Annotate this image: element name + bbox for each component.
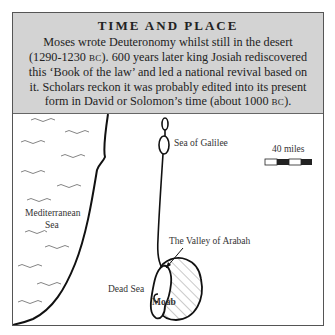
label-sea-of-galilee: Sea of Galilee	[174, 138, 228, 148]
caption-line: this ‘Book of the law’ and led a nationa…	[19, 65, 317, 80]
caption-box: TIME AND PLACE Moses wrote Deuteronomy w…	[13, 13, 323, 114]
label-sea: Sea	[45, 220, 59, 230]
map-figure: TIME AND PLACE Moses wrote Deuteronomy w…	[12, 12, 324, 326]
map-area: Sea of Galilee Mediterranean Sea The Val…	[13, 114, 323, 325]
scale-bar	[265, 159, 312, 165]
label-valley-of-arabah: The Valley of Arabah	[169, 236, 250, 246]
caption-line: form in David or Solomon’s time (about 1…	[19, 94, 317, 110]
coastline	[13, 114, 108, 325]
label-moab: Moab	[152, 297, 176, 307]
label-mediterranean: Mediterranean	[25, 208, 80, 218]
caption-title: TIME AND PLACE	[13, 18, 323, 34]
caption-line: Moses wrote Deuteronomy whilst still in …	[19, 35, 317, 50]
jordan-river	[158, 118, 169, 269]
scale-label: 40 miles	[272, 144, 304, 154]
caption-line: (1290-1230 BC). 600 years later king Jos…	[19, 50, 317, 66]
caption-text: Moses wrote Deuteronomy whilst still in …	[13, 35, 323, 110]
label-dead-sea: Dead Sea	[108, 284, 144, 294]
caption-line: it. Scholars reckon it was probably edit…	[19, 80, 317, 95]
